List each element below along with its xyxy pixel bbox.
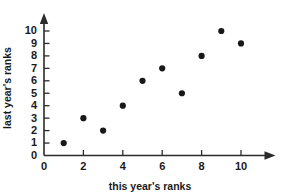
scatter-plot-figure: 012345678910 0246810 this year's ranks l…	[0, 0, 285, 196]
x-tick-label: 0	[41, 160, 47, 172]
y-tick-label: 7	[31, 62, 37, 74]
x-tick-label: 2	[80, 160, 86, 172]
y-tick-label: 5	[31, 87, 37, 99]
data-point	[61, 140, 67, 146]
data-point	[218, 28, 224, 34]
y-tick-label: 8	[31, 49, 37, 61]
y-axis-tick-labels: 012345678910	[25, 24, 38, 161]
data-point	[238, 40, 244, 46]
x-tick-label: 4	[120, 160, 127, 172]
y-tick-label: 9	[31, 37, 37, 49]
x-tick-label: 10	[235, 160, 247, 172]
data-point	[179, 90, 185, 96]
data-point	[199, 53, 205, 59]
y-axis-tick-marks	[44, 31, 50, 143]
data-point	[80, 115, 86, 121]
data-point	[120, 103, 126, 109]
y-tick-label: 6	[31, 74, 37, 86]
x-axis-tick-marks	[83, 150, 241, 156]
y-axis-arrow-icon	[40, 13, 48, 24]
x-axis-tick-labels: 0246810	[41, 160, 247, 172]
y-tick-label: 3	[31, 112, 37, 124]
y-tick-label: 2	[31, 124, 37, 136]
data-point	[139, 78, 145, 84]
data-point-group	[61, 28, 244, 146]
y-axis-title: last year's ranks	[1, 47, 13, 129]
y-tick-label: 1	[31, 136, 37, 148]
x-axis-title: this year's ranks	[109, 180, 192, 192]
axis-lines	[40, 13, 276, 160]
y-tick-label: 4	[31, 99, 38, 111]
x-axis-arrow-icon	[265, 151, 276, 159]
y-tick-label: 10	[25, 24, 37, 36]
data-point	[100, 128, 106, 134]
data-point	[159, 65, 165, 71]
plot-canvas: 012345678910 0246810 this year's ranks l…	[0, 0, 285, 196]
x-tick-label: 8	[199, 160, 205, 172]
x-tick-label: 6	[159, 160, 165, 172]
y-tick-label: 0	[31, 149, 37, 161]
